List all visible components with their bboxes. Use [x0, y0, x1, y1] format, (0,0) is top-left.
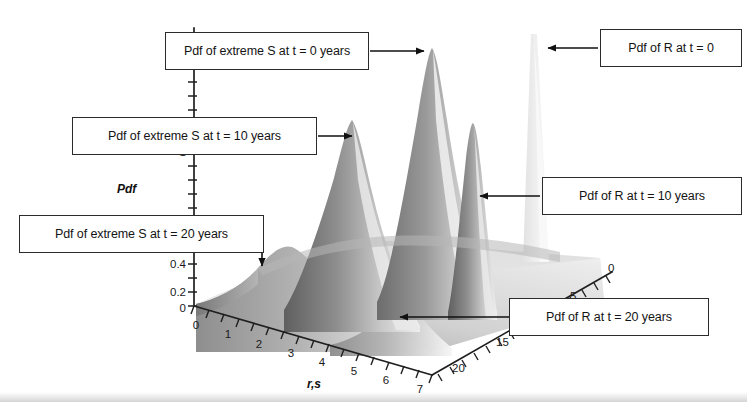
vtick-7: 0: [180, 302, 186, 314]
callout-s-t20[interactable]: Pdf of extreme S at t = 20 years: [19, 215, 264, 253]
axis-vertical-ticks: [188, 40, 197, 306]
dtick-0: 0: [608, 262, 614, 274]
axis-title-pdf: Pdf: [117, 182, 136, 196]
htick-0: 0: [193, 319, 199, 331]
htick-1: 1: [225, 328, 231, 340]
callout-r-t0[interactable]: Pdf of R at t = 0: [600, 29, 742, 67]
dtick-15: 15: [496, 336, 509, 348]
callout-r-t10[interactable]: Pdf of R at t = 10 years: [542, 177, 742, 215]
dtick-20: 20: [452, 362, 465, 374]
htick-6: 6: [383, 374, 389, 386]
callout-s-t10[interactable]: Pdf of extreme S at t = 10 years: [72, 117, 317, 155]
callout-s-t0[interactable]: Pdf of extreme S at t = 0 years: [165, 32, 369, 70]
vtick-6: 0.2: [170, 286, 186, 298]
htick-5: 5: [351, 365, 357, 377]
figure-canvas: 1.8 1.6 1.2 1 0.4 0.2 0 0 1 2 3 4 5 6 7 …: [0, 0, 747, 402]
htick-4: 4: [319, 356, 326, 368]
axis-title-rs: r,s: [307, 377, 321, 391]
htick-3: 3: [288, 347, 294, 359]
scan-artifact: [0, 392, 747, 402]
htick-2: 2: [256, 338, 262, 350]
callout-r-t20[interactable]: Pdf of R at t = 20 years: [509, 298, 709, 336]
vtick-5: 0.4: [170, 258, 187, 270]
axis-vertical-tick-labels: 1.8 1.6 1.2 1 0.4 0.2 0: [170, 34, 187, 314]
